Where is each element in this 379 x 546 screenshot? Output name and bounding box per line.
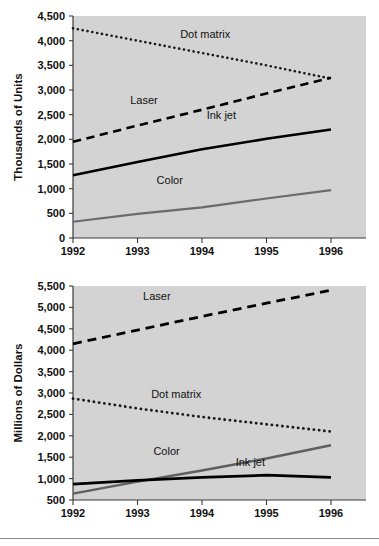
x-tick-label: 1992 [61,507,85,519]
y-tick-label: 3,500 [37,59,65,71]
y-tick-label: 500 [47,207,65,219]
y-tick-label: 2,000 [37,133,65,145]
series-label-ink-jet: Ink jet [207,109,236,121]
series-label-dot-matrix: Dot matrix [151,388,202,400]
x-tick-label: 1993 [125,245,149,257]
y-tick-label: 2,500 [37,109,65,121]
series-label-color: Color [157,174,184,186]
series-label-ink-jet: Ink jet [236,456,265,468]
y-axis-title: Thousands of Units [12,73,24,180]
y-tick-label: 4,000 [37,344,65,356]
x-tick-label: 1995 [254,245,278,257]
y-tick-label: 1,500 [37,451,65,463]
x-tick-label: 1992 [61,245,85,257]
y-tick-label: 1,000 [37,183,65,195]
x-tick-label: 1993 [125,507,149,519]
chart-thousands-of-units: 05001,0001,5002,0002,5003,0003,5004,0004… [0,0,379,268]
y-tick-label: 2,500 [37,408,65,420]
y-tick-label: 5,500 [37,280,65,292]
x-tick-label: 1994 [190,245,215,257]
y-tick-label: 0 [59,232,65,244]
y-tick-label: 4,000 [37,35,65,47]
y-axis-title: Millions of Dollars [12,343,24,442]
series-label-laser: Laser [130,94,158,106]
chart-top-svg: 05001,0001,5002,0002,5003,0003,5004,0004… [0,0,379,268]
y-tick-label: 500 [47,494,65,506]
y-tick-label: 4,500 [37,323,65,335]
y-tick-label: 3,500 [37,366,65,378]
y-tick-label: 5,000 [37,301,65,313]
y-tick-label: 2,000 [37,430,65,442]
y-tick-label: 3,000 [37,84,65,96]
y-tick-label: 4,500 [37,10,65,22]
y-tick-label: 1,500 [37,158,65,170]
chart-bottom-svg: 5001,0001,5002,0002,5003,0003,5004,0004,… [0,268,379,530]
y-tick-label: 3,000 [37,387,65,399]
series-label-laser: Laser [143,290,171,302]
footer-divider [0,538,379,539]
chart-millions-of-dollars: 5001,0001,5002,0002,5003,0003,5004,0004,… [0,268,379,530]
figure-page: 05001,0001,5002,0002,5003,0003,5004,0004… [0,0,379,546]
x-tick-label: 1996 [319,245,343,257]
series-label-dot-matrix: Dot matrix [180,28,231,40]
x-tick-label: 1994 [190,507,215,519]
x-tick-label: 1995 [254,507,278,519]
y-tick-label: 1,000 [37,473,65,485]
series-label-color: Color [153,445,180,457]
x-tick-label: 1996 [319,507,343,519]
